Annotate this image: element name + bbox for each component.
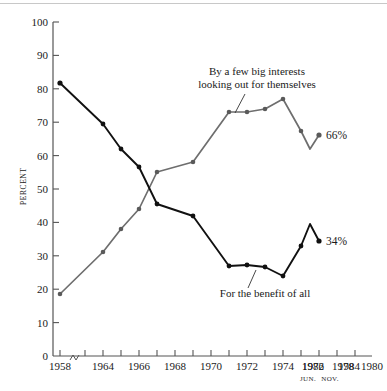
x-sublabel-jun: JUN. <box>300 375 316 383</box>
x-sublabel-nov: NOV. <box>321 375 339 383</box>
x-label-1982: 1982 <box>302 360 324 372</box>
x-label-1984: 1984 <box>338 360 361 372</box>
x-axis-late-labels: 1982 1984 JUN. NOV. <box>0 0 387 391</box>
chart-figure: 100 90 80 70 60 50 40 30 20 10 0 PERCENT <box>0 0 387 391</box>
